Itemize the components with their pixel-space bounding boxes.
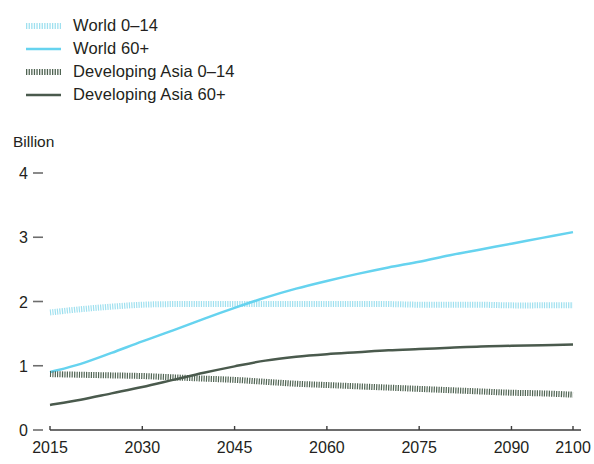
x-axis-ticks: 2015203020452060207520902100 [32, 439, 591, 456]
y-tick-label: 0 [19, 422, 28, 439]
chart-series-line [50, 304, 573, 312]
x-tick-label: 2045 [217, 439, 253, 456]
x-tick-label: 2030 [124, 439, 160, 456]
x-axis [50, 426, 581, 430]
x-tick-label: 2060 [309, 439, 345, 456]
y-tick-label: 3 [19, 229, 28, 246]
x-tick-label: 2075 [401, 439, 437, 456]
chart-series-line [50, 345, 573, 405]
y-axis-ticks: 01234 [19, 165, 43, 439]
x-tick-label: 2090 [494, 439, 530, 456]
chart-series-line [50, 374, 573, 395]
chart-plot-area: 01234 2015203020452060207520902100 [0, 0, 594, 464]
y-tick-label: 1 [19, 358, 28, 375]
line-chart: 01234 2015203020452060207520902100 [0, 0, 594, 464]
chart-series-group [50, 232, 573, 405]
x-tick-label: 2100 [555, 439, 591, 456]
x-tick-label: 2015 [32, 439, 68, 456]
y-tick-label: 4 [19, 165, 28, 182]
y-tick-label: 2 [19, 294, 28, 311]
